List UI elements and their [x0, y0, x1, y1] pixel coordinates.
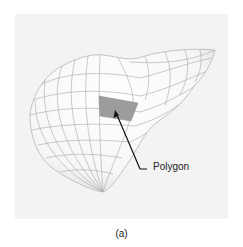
figure-caption: (a): [0, 228, 243, 239]
mesh-diagram: [0, 0, 243, 247]
polygon-label: Polygon: [153, 161, 189, 172]
